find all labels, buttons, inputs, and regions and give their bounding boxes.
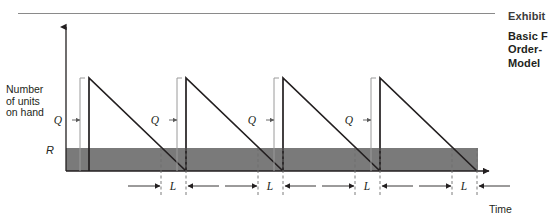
lead-time-label-1: L	[169, 180, 176, 192]
lead-time-label-3: L	[363, 180, 370, 192]
reorder-point-label: R	[46, 144, 54, 156]
order-quantity-label-1: Q	[54, 114, 63, 126]
order-quantity-label-3: Q	[248, 114, 257, 126]
x-axis-caption: Time	[489, 203, 512, 215]
lead-time-label-2: L	[266, 180, 273, 192]
order-quantity-label-2: Q	[151, 114, 160, 126]
lead-time-label-4: L	[460, 180, 467, 192]
y-axis-caption-line-3: on hand	[6, 107, 44, 119]
y-axis-caption: Number of units on hand	[6, 84, 44, 119]
exhibit-figure: Exhibit Basic F Order- Model	[0, 0, 555, 221]
y-axis-caption-line-1: Number	[6, 84, 44, 96]
order-quantity-label-4: Q	[345, 114, 354, 126]
inventory-sawtooth-chart: Q Q Q Q L L L L	[0, 0, 555, 221]
